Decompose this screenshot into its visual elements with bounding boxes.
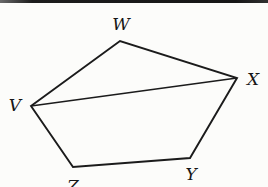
vertex-label-w: W bbox=[112, 14, 131, 34]
scanned-figure-page: V W X Y Z bbox=[0, 0, 268, 187]
pentagon-figure: V W X Y Z bbox=[0, 0, 268, 187]
vertex-label-z: Z bbox=[66, 176, 80, 187]
vertex-label-v: V bbox=[9, 95, 23, 115]
diagonal-vx bbox=[31, 78, 237, 106]
pentagon-outline bbox=[31, 41, 237, 167]
vertex-label-x: X bbox=[245, 69, 260, 89]
vertex-label-y: Y bbox=[185, 164, 198, 184]
